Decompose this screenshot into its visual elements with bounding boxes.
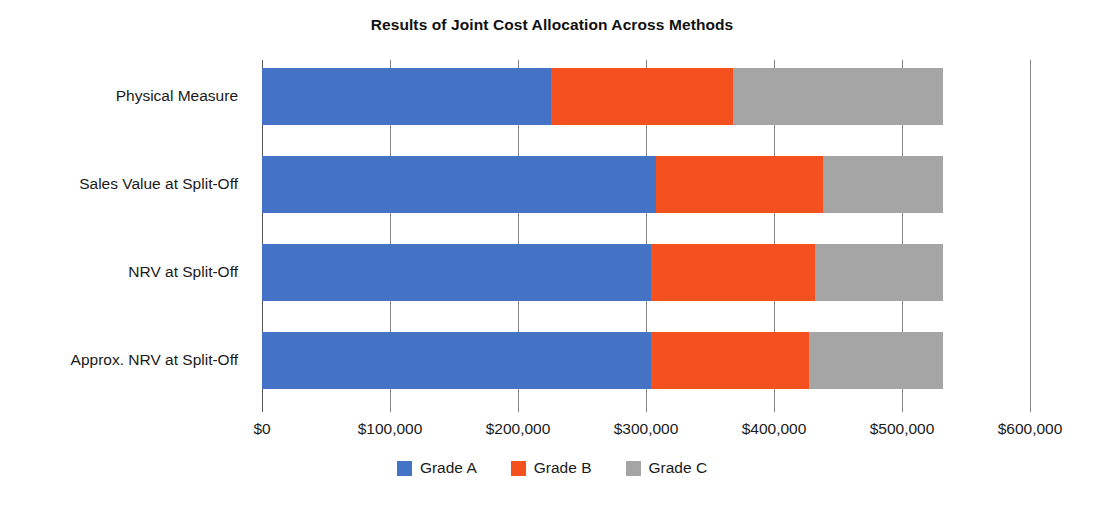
legend-item[interactable]: Grade C (626, 459, 708, 477)
chart-title: Results of Joint Cost Allocation Across … (0, 16, 1104, 34)
bar-segment-grade-a[interactable] (262, 68, 551, 125)
legend-swatch-icon (511, 461, 526, 476)
stacked-bar[interactable] (262, 244, 943, 301)
gridline-600000 (1030, 60, 1031, 412)
bar-row (262, 148, 1030, 236)
stacked-bar[interactable] (262, 156, 943, 213)
bar-segment-grade-b[interactable] (651, 332, 808, 389)
x-axis-tick-label: $400,000 (742, 420, 807, 438)
legend-item[interactable]: Grade A (397, 459, 477, 477)
legend-item[interactable]: Grade B (511, 459, 592, 477)
stacked-bar[interactable] (262, 332, 943, 389)
y-axis-tick-label: NRV at Split-Off (0, 263, 238, 281)
bar-segment-grade-c[interactable] (823, 156, 943, 213)
bar-segment-grade-c[interactable] (815, 244, 943, 301)
bar-segment-grade-a[interactable] (262, 332, 651, 389)
legend-swatch-icon (626, 461, 641, 476)
stacked-bar-chart: Results of Joint Cost Allocation Across … (0, 0, 1104, 506)
bar-segment-grade-c[interactable] (733, 68, 943, 125)
bar-row (262, 60, 1030, 148)
x-axis-tick-label: $300,000 (614, 420, 679, 438)
x-axis-tick-label: $600,000 (998, 420, 1063, 438)
y-axis-tick-label: Physical Measure (0, 87, 238, 105)
legend-label: Grade A (420, 459, 477, 477)
x-axis-tick-label: $100,000 (358, 420, 423, 438)
legend-swatch-icon (397, 461, 412, 476)
y-axis-tick-label: Approx. NRV at Split-Off (0, 351, 238, 369)
bar-segment-grade-a[interactable] (262, 244, 651, 301)
y-axis-tick-label: Sales Value at Split-Off (0, 175, 238, 193)
bar-segment-grade-a[interactable] (262, 156, 656, 213)
x-axis-tick-label: $500,000 (870, 420, 935, 438)
bar-segment-grade-b[interactable] (651, 244, 815, 301)
y-axis-label-group: Physical MeasureSales Value at Split-Off… (0, 60, 250, 412)
legend-label: Grade B (534, 459, 592, 477)
x-axis-tick-label: $0 (253, 420, 270, 438)
x-axis-label-group: $0$100,000$200,000$300,000$400,000$500,0… (0, 420, 1104, 450)
legend-label: Grade C (649, 459, 708, 477)
bar-segment-grade-b[interactable] (551, 68, 733, 125)
bar-row (262, 236, 1030, 324)
x-axis-tick-label: $200,000 (486, 420, 551, 438)
bar-segment-grade-b[interactable] (656, 156, 822, 213)
bar-segment-grade-c[interactable] (809, 332, 943, 389)
stacked-bar[interactable] (262, 68, 943, 125)
chart-legend: Grade AGrade BGrade C (0, 459, 1104, 477)
plot-area (262, 60, 1030, 412)
bar-row (262, 324, 1030, 412)
